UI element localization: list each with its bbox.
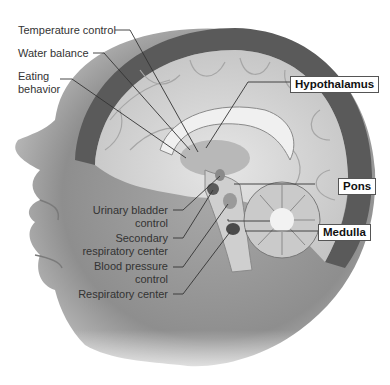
brain-diagram: Temperature control Water balance Eating… [0, 0, 390, 385]
label-eating-behavior-line2: behavior [18, 83, 60, 96]
label-eating-behavior-line1: Eating [18, 70, 49, 83]
label-water-balance: Water balance [18, 47, 89, 60]
label-urinary-bladder-control-line1: Urinary bladder [93, 204, 168, 217]
label-pons: Pons [338, 178, 376, 195]
label-blood-pressure-control-line1: Blood pressure [94, 260, 168, 273]
label-hypothalamus: Hypothalamus [290, 76, 379, 93]
thalamus [180, 140, 250, 176]
label-blood-pressure-control-line2: control [135, 273, 168, 286]
label-urinary-bladder-control-line2: control [135, 217, 168, 230]
label-secondary-respiratory-center-line1: Secondary [115, 232, 168, 245]
label-medulla: Medulla [318, 224, 371, 241]
label-secondary-respiratory-center-line2: respiratory center [82, 245, 168, 258]
label-temperature-control: Temperature control [18, 24, 116, 37]
label-respiratory-center: Respiratory center [78, 288, 168, 301]
